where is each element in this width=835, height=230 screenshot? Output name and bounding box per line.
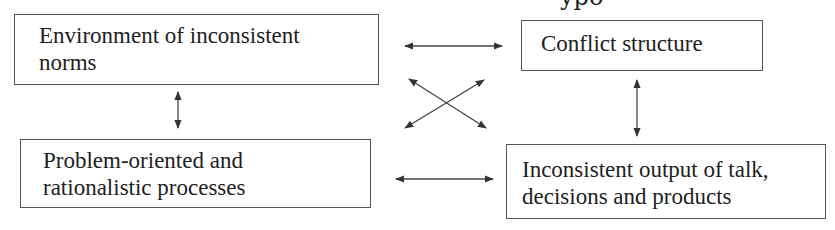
arrow-prob-conf-diagonal-icon <box>405 80 484 128</box>
connector-layer <box>0 0 835 230</box>
